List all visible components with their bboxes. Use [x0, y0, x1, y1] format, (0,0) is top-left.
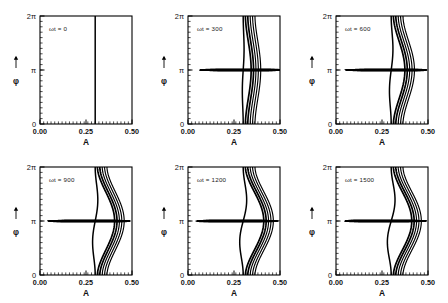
panel-omega-t-300: 0.000.250.500π2πAφωt = 300 [161, 12, 287, 147]
contour-group [49, 167, 130, 275]
y-tick-label: 2π [27, 12, 36, 21]
y-tick-label: 0 [32, 271, 36, 280]
y-axis-title: φ [309, 227, 315, 237]
y-tick-label: π [179, 66, 184, 75]
x-tick-label: 0.50 [421, 127, 435, 136]
y-tick-label: 0 [328, 120, 332, 129]
x-tick-label: 0.50 [421, 278, 435, 287]
y-tick-label: 2π [175, 12, 184, 21]
y-axis-arrow-head [310, 56, 314, 60]
x-axis-title: A [83, 288, 89, 298]
x-tick-label: 0.25 [79, 278, 93, 287]
x-tick-label: 0.50 [273, 278, 287, 287]
y-axis-arrow-head [162, 56, 166, 60]
x-tick-label: 0.25 [227, 127, 241, 136]
x-axis-title: A [379, 288, 385, 298]
y-tick-label: 2π [323, 163, 332, 172]
panel-omega-t-0: 0.000.250.500π2πAφωt = 0 [13, 12, 139, 147]
y-axis-arrow-head [14, 56, 18, 60]
y-tick-label: π [179, 217, 184, 226]
y-tick-label: 0 [180, 271, 184, 280]
x-tick-label: 0.50 [125, 127, 139, 136]
y-axis-title: φ [13, 227, 19, 237]
y-tick-label: π [31, 217, 36, 226]
y-axis-title: φ [13, 76, 19, 86]
y-axis-title: φ [161, 76, 167, 86]
y-axis-arrow-head [162, 207, 166, 211]
y-tick-label: 2π [323, 12, 332, 21]
y-tick-label: π [327, 217, 332, 226]
x-tick-label: 0.25 [375, 127, 389, 136]
y-axis-title: φ [309, 76, 315, 86]
x-tick-label: 0.50 [125, 278, 139, 287]
panel-label: ωt = 1200 [197, 176, 227, 183]
panel-omega-t-1500: 0.000.250.500π2πAφωt = 1500 [309, 163, 435, 298]
x-axis-title: A [379, 137, 385, 147]
contour-line [200, 70, 280, 71]
contour-group [346, 16, 426, 124]
x-tick-label: 0.50 [273, 127, 287, 136]
panel-label: ωt = 600 [345, 25, 371, 32]
contour-group [346, 167, 426, 275]
y-tick-label: 2π [175, 163, 184, 172]
figure-canvas: 0.000.250.500π2πAφωt = 00.000.250.500π2π… [0, 0, 448, 303]
panel-label: ωt = 1500 [345, 176, 375, 183]
contour-group [200, 16, 280, 124]
phase-space-contour-figure: 0.000.250.500π2πAφωt = 00.000.250.500π2π… [0, 0, 448, 303]
y-tick-label: 2π [27, 163, 36, 172]
x-tick-label: 0.25 [79, 127, 93, 136]
panel-label: ωt = 300 [197, 25, 223, 32]
panel-omega-t-600: 0.000.250.500π2πAφωt = 600 [309, 12, 435, 147]
y-axis-arrow-head [14, 207, 18, 211]
y-tick-label: π [31, 66, 36, 75]
panel-label: ωt = 0 [49, 25, 68, 32]
y-axis-arrow-head [310, 207, 314, 211]
panel-frame [40, 16, 132, 124]
x-axis-title: A [83, 137, 89, 147]
panel-omega-t-1200: 0.000.250.500π2πAφωt = 1200 [161, 163, 287, 298]
contour-group [197, 167, 277, 275]
x-tick-label: 0.25 [375, 278, 389, 287]
y-tick-label: π [327, 66, 332, 75]
y-tick-label: 0 [32, 120, 36, 129]
panel-omega-t-900: 0.000.250.500π2πAφωt = 900 [13, 163, 139, 298]
x-axis-title: A [231, 137, 237, 147]
x-axis-title: A [231, 288, 237, 298]
x-tick-label: 0.25 [227, 278, 241, 287]
panel-label: ωt = 900 [49, 176, 75, 183]
y-tick-label: 0 [328, 271, 332, 280]
y-tick-label: 0 [180, 120, 184, 129]
y-axis-title: φ [161, 227, 167, 237]
